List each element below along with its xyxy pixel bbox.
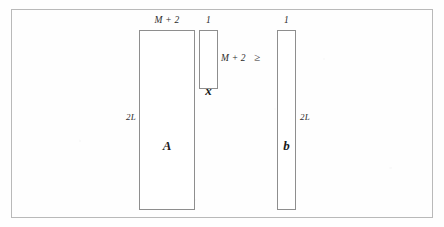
vector-x-block: x (199, 30, 218, 89)
vector-b-right-dimension-label: 2L (300, 113, 310, 122)
vector-b-top-dimension-label: 1 (277, 16, 296, 26)
vector-b-symbol: b (278, 139, 295, 152)
vector-x-symbol: x (200, 84, 217, 97)
vector-x-top-dimension-label: 1 (199, 16, 218, 26)
greater-equal-operator: ≥ (254, 52, 260, 63)
diagram-canvas: M + 2 1 1 A 2L x M + 2 ≥ b 2L (0, 0, 444, 227)
vector-x-right-dimension-label: M + 2 (221, 54, 246, 64)
vector-b-block: b (277, 30, 296, 210)
matrix-a-block: A (139, 30, 195, 210)
matrix-a-top-dimension-label: M + 2 (139, 16, 195, 26)
matrix-a-symbol: A (140, 139, 194, 152)
matrix-a-left-dimension-label: 2L (114, 113, 136, 122)
figure-border (11, 9, 433, 218)
